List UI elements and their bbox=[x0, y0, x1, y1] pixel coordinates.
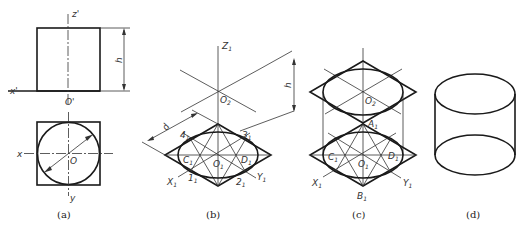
label-o2: O2 bbox=[365, 96, 376, 107]
caption-b: (b) bbox=[206, 209, 220, 220]
label-d: d bbox=[160, 122, 172, 132]
panel-b: Z1 O2 h d 41 31 C1 O1 D1 X1 11 21 Y1 (b) bbox=[142, 41, 296, 220]
front-view-rect bbox=[37, 28, 100, 91]
cylinder-isometric-figure: z' x' O' h x O y (a) bbox=[0, 0, 530, 234]
label-x-prime: x' bbox=[9, 86, 18, 96]
label-y1: Y1 bbox=[403, 178, 412, 189]
label-z1: Z1 bbox=[221, 41, 232, 52]
label-o2: O2 bbox=[220, 95, 231, 106]
label-o1: O1 bbox=[213, 159, 224, 170]
cylinder-top-ellipse bbox=[435, 74, 515, 114]
caption-d: (d) bbox=[466, 209, 480, 220]
cylinder-bottom-front-arc bbox=[435, 155, 515, 175]
arrow-down-icon bbox=[122, 84, 126, 91]
label-a1: A1 bbox=[367, 119, 378, 130]
label-x: x bbox=[16, 149, 23, 159]
label-c1: C1 bbox=[328, 152, 338, 163]
label-h: h bbox=[283, 82, 293, 88]
label-d1: D1 bbox=[241, 155, 252, 166]
label-d1: D1 bbox=[388, 151, 399, 162]
caption-a: (a) bbox=[57, 209, 71, 220]
label-o1: O1 bbox=[358, 159, 369, 170]
label-o: O bbox=[70, 156, 77, 166]
label-3-1: 31 bbox=[242, 130, 252, 141]
label-4-1: 41 bbox=[180, 130, 190, 141]
panel-a: z' x' O' h x O y (a) bbox=[8, 9, 130, 220]
label-x1: X1 bbox=[166, 177, 177, 188]
label-x1: X1 bbox=[311, 178, 322, 189]
label-c1: C1 bbox=[183, 155, 193, 166]
label-o-prime: O' bbox=[65, 97, 75, 107]
label-b1: B1 bbox=[357, 191, 367, 202]
arrow-up-icon bbox=[122, 28, 126, 35]
caption-c: (c) bbox=[352, 209, 366, 220]
label-z-prime: z' bbox=[71, 9, 79, 19]
label-y: y bbox=[69, 193, 76, 203]
panel-d: (d) bbox=[435, 74, 515, 220]
label-y1: Y1 bbox=[257, 172, 266, 183]
label-h: h bbox=[114, 57, 124, 63]
label-2-1: 21 bbox=[236, 177, 246, 188]
panel-c: O2 A1 C1 O1 D1 X1 Y1 B1 (c) bbox=[310, 48, 416, 220]
cylinder-bottom-back-arc bbox=[435, 135, 515, 155]
